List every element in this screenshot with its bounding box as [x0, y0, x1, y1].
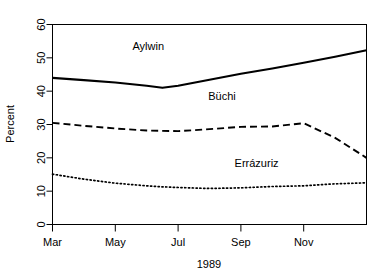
x-tick-label: May [105, 236, 126, 248]
y-tick-label: 50 [35, 52, 47, 64]
series-line-bchi [53, 123, 367, 158]
series-inline-labels: AylwinBüchiErrázuriz [132, 40, 278, 169]
y-tick-label: 60 [35, 18, 47, 30]
axis-lines [53, 25, 367, 225]
line-chart: 0102030405060 MarMayJulSepNov AylwinBüch… [0, 0, 386, 275]
y-tick-label: 30 [35, 118, 47, 130]
series-label-aylwin: Aylwin [132, 40, 164, 52]
chart-container: 0102030405060 MarMayJulSepNov AylwinBüch… [0, 0, 386, 275]
x-tick-label: Jul [171, 236, 185, 248]
y-tick-label: 40 [35, 85, 47, 97]
plot-frame [53, 25, 367, 225]
y-tick-label: 10 [35, 185, 47, 197]
series-line-aylwin [53, 50, 367, 88]
x-tick-label: Sep [231, 236, 251, 248]
y-tick-label: 20 [35, 152, 47, 164]
x-tick-label: Mar [43, 236, 62, 248]
x-axis-title: 1989 [197, 258, 221, 270]
series-label-bchi: Büchi [208, 90, 236, 102]
series-line-errzuriz [53, 174, 367, 188]
y-axis-ticks: 0102030405060 [35, 18, 53, 227]
y-tick-label: 0 [35, 221, 47, 227]
y-axis-title: Percent [4, 105, 16, 143]
data-series-group [53, 50, 367, 188]
series-label-errzuriz: Errázuriz [235, 157, 279, 169]
x-tick-label: Nov [294, 236, 314, 248]
x-axis-ticks: MarMayJulSepNov [43, 225, 314, 249]
